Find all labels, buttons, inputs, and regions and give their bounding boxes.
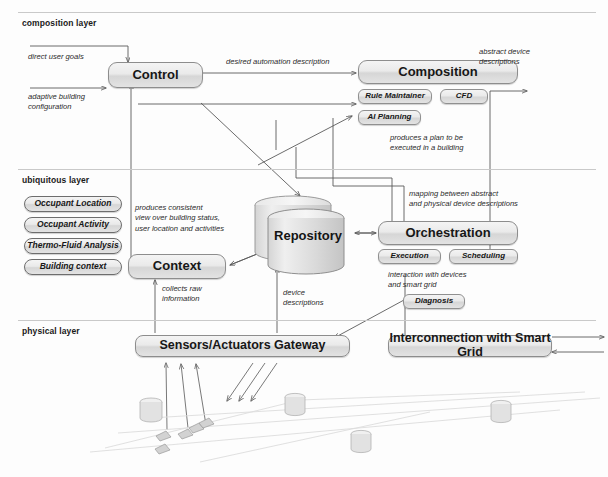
layer-divider-ubiquitous	[18, 169, 596, 170]
node-control[interactable]: Control	[108, 62, 203, 88]
node-occupant-location[interactable]: Occupant Location	[24, 196, 122, 212]
node-occupant-activity[interactable]: Occupant Activity	[24, 217, 122, 233]
annotation-produces-a-plan: produces a plan to be executed in a buil…	[390, 133, 463, 154]
node-context[interactable]: Context	[128, 254, 226, 279]
annotation-produces-consistent-view: produces consistent view over building s…	[135, 203, 224, 234]
node-interconnection-smart-grid[interactable]: Interconnection with Smart Grid	[388, 335, 552, 357]
annotation-adaptive-building-configuration: adaptive building configuration	[28, 92, 85, 113]
layer-divider-top	[18, 12, 596, 13]
architecture-diagram: composition layer ubiquitous layer physi…	[0, 0, 608, 477]
layer-label-ubiquitous: ubiquitous layer	[22, 175, 89, 185]
node-building-context[interactable]: Building context	[24, 259, 122, 275]
node-execution[interactable]: Execution	[378, 249, 441, 264]
node-scheduling[interactable]: Scheduling	[449, 249, 518, 264]
node-repository-label: Repository	[272, 228, 344, 243]
annotation-desired-automation-description: desired automation description	[226, 57, 329, 67]
annotation-abstract-device-descriptions: abstract device descriptions	[479, 47, 530, 68]
node-thermo-fluid-analysis[interactable]: Thermo-Fluid Analysis	[24, 238, 122, 254]
node-sensors-actuators-gateway[interactable]: Sensors/Actuators Gateway	[135, 335, 350, 357]
layer-divider-physical	[18, 320, 596, 321]
annotation-direct-user-goals: direct user goals	[28, 52, 84, 62]
annotation-mapping-between-descriptions: mapping between abstract and physical de…	[409, 189, 518, 210]
annotation-device-descriptions: device descriptions	[283, 288, 324, 309]
layer-label-physical: physical layer	[22, 326, 80, 336]
node-orchestration[interactable]: Orchestration	[378, 221, 518, 245]
node-rule-maintainer[interactable]: Rule Maintainer	[358, 89, 432, 104]
node-cfd[interactable]: CFD	[440, 89, 488, 104]
node-ai-planning[interactable]: AI Planning	[358, 110, 421, 125]
annotation-collects-raw-information: collects raw information	[162, 284, 202, 305]
annotation-interaction-with-devices: interaction with devices and smart grid	[388, 270, 467, 291]
layer-label-composition: composition layer	[22, 18, 96, 28]
node-diagnosis[interactable]: Diagnosis	[403, 294, 465, 309]
